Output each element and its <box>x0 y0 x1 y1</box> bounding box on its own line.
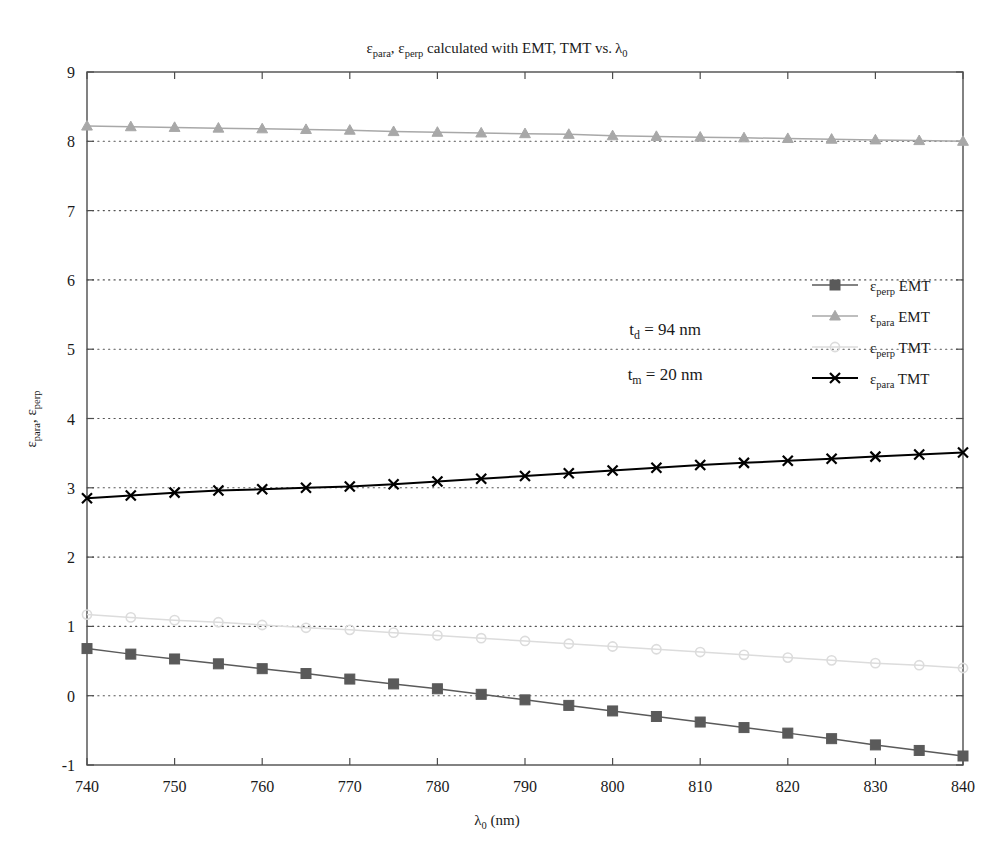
legend-item-0[interactable]: εperp EMT <box>812 278 930 297</box>
legend-item-3[interactable]: εpara TMT <box>812 371 930 390</box>
xtick-label-820: 820 <box>776 778 800 795</box>
annotations: td = 94 nmtm = 20 nm <box>628 320 703 387</box>
series-0-marker-7 <box>389 679 399 689</box>
series-0-marker-10 <box>520 695 530 705</box>
series-0-marker-8 <box>432 684 442 694</box>
ytick-label-5: 5 <box>67 341 75 358</box>
series-0-marker-9 <box>476 689 486 699</box>
xtick-label-840: 840 <box>951 778 975 795</box>
ytick-label-6: 6 <box>67 272 75 289</box>
chart-canvas: 740750760770780790800810820830840-101234… <box>0 0 999 867</box>
chart-text: 740750760770780790800810820830840-101234… <box>23 40 975 831</box>
ytick-label-7: 7 <box>67 203 75 220</box>
series-3 <box>82 447 968 503</box>
x-axis-label: λ0 (nm) <box>474 812 519 831</box>
series-0-marker-17 <box>827 734 837 744</box>
ytick-label-0: 0 <box>67 688 75 705</box>
annotation-1: tm = 20 nm <box>628 365 703 387</box>
xtick-label-740: 740 <box>75 778 99 795</box>
xtick-label-760: 760 <box>250 778 274 795</box>
series-0-marker-5 <box>301 669 311 679</box>
series-0-marker-3 <box>213 659 223 669</box>
series-0-marker-19 <box>914 745 924 755</box>
chart-figure: 740750760770780790800810820830840-101234… <box>0 0 999 867</box>
legend-item-2[interactable]: εperp TMT <box>812 340 930 359</box>
legend-marker-0 <box>830 280 840 290</box>
series-0-marker-0 <box>82 644 92 654</box>
gridlines <box>87 141 963 695</box>
annotation-0: td = 94 nm <box>629 320 701 342</box>
legend-label-2: εperp TMT <box>870 340 930 359</box>
series-0-marker-20 <box>958 751 968 761</box>
legend-label-1: εpara EMT <box>870 309 930 328</box>
series-1-marker-0 <box>82 120 93 130</box>
legend: εperp EMTεpara EMTεperp TMTεpara TMT <box>812 278 930 390</box>
y-axis-label: εpara, εperp <box>23 391 42 448</box>
xtick-label-750: 750 <box>163 778 187 795</box>
ytick-label-2: 2 <box>67 549 75 566</box>
xtick-label-790: 790 <box>513 778 537 795</box>
series-0-marker-13 <box>651 711 661 721</box>
series-0-marker-14 <box>695 717 705 727</box>
series-0-marker-12 <box>608 706 618 716</box>
ytick-label-3: 3 <box>67 480 75 497</box>
ytick-label-8: 8 <box>67 133 75 150</box>
legend-marker-1 <box>830 310 841 320</box>
series-0-marker-4 <box>257 664 267 674</box>
series-0-marker-6 <box>345 674 355 684</box>
data-series-group <box>82 120 969 761</box>
series-0-marker-1 <box>126 649 136 659</box>
xtick-label-800: 800 <box>601 778 625 795</box>
legend-label-3: εpara TMT <box>870 371 930 390</box>
ytick-label-9: 9 <box>67 64 75 81</box>
ytick-label--1: -1 <box>62 757 75 774</box>
xtick-label-770: 770 <box>338 778 362 795</box>
series-0-marker-15 <box>739 723 749 733</box>
series-0-marker-11 <box>564 700 574 710</box>
series-0-marker-16 <box>783 728 793 738</box>
xtick-label-780: 780 <box>425 778 449 795</box>
xtick-label-810: 810 <box>688 778 712 795</box>
chart-title: εpara, εperp calculated with EMT, TMT vs… <box>366 40 627 59</box>
ytick-label-4: 4 <box>67 411 75 428</box>
ytick-label-1: 1 <box>67 618 75 635</box>
legend-label-0: εperp EMT <box>870 278 930 297</box>
series-0-marker-18 <box>870 740 880 750</box>
legend-item-1[interactable]: εpara EMT <box>812 309 930 328</box>
series-0-marker-2 <box>170 654 180 664</box>
xtick-label-830: 830 <box>863 778 887 795</box>
